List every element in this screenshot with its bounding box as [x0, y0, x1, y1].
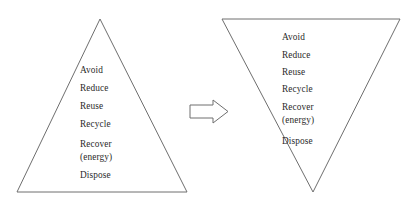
upright-label-reuse: Reuse [80, 102, 103, 111]
upright-label-energy: (energy) [80, 153, 112, 162]
inverted-label-energy: (energy) [282, 116, 314, 125]
inverted-label-dispose: Dispose [282, 137, 313, 146]
upright-label-recycle: Recycle [80, 120, 111, 129]
right-arrow-icon [190, 100, 228, 123]
upright-label-dispose: Dispose [80, 171, 111, 180]
inverted-label-reuse: Reuse [282, 68, 305, 77]
upright-label-reduce: Reduce [80, 84, 108, 93]
figure-shapes [0, 0, 413, 205]
inverted-label-recover: Recover [282, 103, 314, 112]
figure-canvas: Avoid Reduce Reuse Recycle Recover (ener… [0, 0, 413, 205]
inverted-label-reduce: Reduce [282, 51, 310, 60]
upright-label-recover: Recover [80, 140, 112, 149]
inverted-label-avoid: Avoid [282, 33, 305, 42]
inverted-label-recycle: Recycle [282, 85, 313, 94]
upright-label-avoid: Avoid [80, 66, 103, 75]
